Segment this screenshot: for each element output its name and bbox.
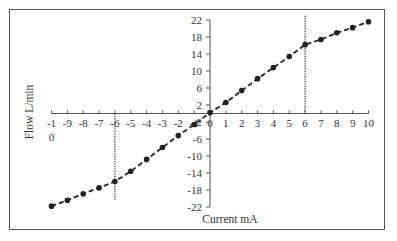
data-point-marker: [302, 42, 308, 48]
x-tick-label: 2: [239, 117, 245, 129]
y-tick-label: 18: [191, 31, 203, 43]
data-point-marker: [49, 203, 55, 209]
x-tick-label: 7: [318, 117, 324, 129]
x-tick-label: 9: [350, 117, 356, 129]
y-tick-label: -10: [187, 150, 202, 162]
data-point-marker: [255, 76, 261, 82]
data-point-marker: [223, 100, 229, 106]
y-tick-label: -14: [187, 167, 202, 179]
x-tick-label: -3: [158, 117, 168, 129]
data-point-marker: [318, 37, 324, 43]
data-point-marker: [112, 179, 118, 185]
x-tick-label: 4: [271, 117, 277, 129]
data-point-marker: [65, 197, 71, 203]
x-tick-label: 5: [287, 117, 293, 129]
data-point-marker: [334, 30, 340, 36]
x-tick-label: -2: [174, 117, 183, 129]
x-tick-label: 10: [363, 117, 375, 129]
data-point-marker: [207, 110, 213, 116]
y-tick-label: -18: [187, 184, 202, 196]
data-point-marker: [271, 65, 277, 71]
data-point-marker: [96, 185, 102, 191]
data-point-marker: [80, 191, 86, 197]
x-tick-label: -5: [126, 117, 136, 129]
y-tick-label: 2: [197, 99, 203, 111]
x-tick-label: -1: [47, 117, 56, 129]
data-point-marker: [366, 19, 372, 25]
flow-vs-current-chart: -10-9-8-7-6-5-4-3-2-10123456789102218141…: [0, 0, 397, 241]
data-point-marker: [286, 54, 292, 60]
x-axis-title: Current mA: [202, 213, 258, 225]
x-tick-label: 6: [302, 117, 308, 129]
data-point-marker: [350, 25, 356, 31]
data-point-marker: [191, 122, 197, 128]
y-tick-label: 22: [191, 14, 202, 26]
x-tick-label: 8: [334, 117, 340, 129]
data-point-marker: [239, 88, 245, 94]
y-tick-label: 14: [191, 48, 203, 60]
y-tick-label: -6: [193, 133, 203, 145]
x-tick-label: 3: [255, 117, 261, 129]
data-point-marker: [144, 157, 150, 163]
y-tick-label: 10: [191, 65, 203, 77]
x-tick-label: -9: [63, 117, 73, 129]
x-tick-label: -4: [142, 117, 152, 129]
x-tick-label: 1: [223, 117, 229, 129]
data-point-marker: [160, 145, 166, 151]
y-axis-title: Flow L/min: [23, 84, 35, 139]
data-point-marker: [128, 169, 134, 175]
x-tick-label: -7: [94, 117, 104, 129]
data-point-marker: [176, 133, 182, 139]
x-tick-label: -8: [79, 117, 89, 129]
y-tick-label: -22: [187, 201, 202, 213]
x-tick-label: 0: [49, 131, 55, 143]
y-tick-label: 6: [197, 82, 203, 94]
